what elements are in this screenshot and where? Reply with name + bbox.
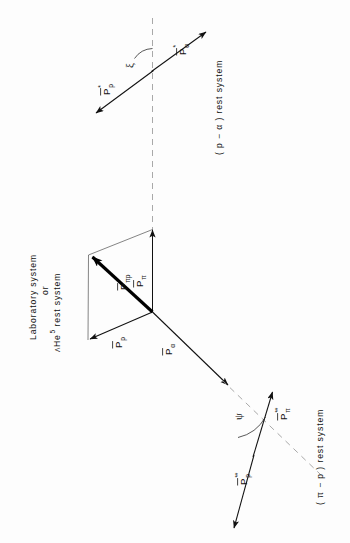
frame-caption-laboratory-line3: Λ He 5 rest system (49, 273, 62, 352)
angle-arc-xi (135, 49, 153, 59)
vector-label-p-proton-doublestar-superscript: ** (234, 472, 241, 477)
vector-label-p-proton-doublestar-symbol: P (238, 479, 249, 485)
vector-label-p-pi-p-subscript: πp (124, 274, 132, 283)
vector-label-p-pi: P π (134, 275, 147, 288)
vector-label-p-pi-doublestar-subscript: π (284, 408, 291, 413)
vector-label-p-pi-p-symbol: P (118, 284, 129, 290)
vector-label-p-pi-subscript: π (140, 275, 147, 280)
frame-caption-pi-p: ( π − p ) rest system (315, 409, 325, 505)
vector-label-p-alpha-symbol: P (163, 349, 174, 355)
vector-label-p-proton: P p (113, 337, 127, 349)
frame-caption-laboratory-line2-text: or (40, 286, 50, 295)
vector-p-proton-doublestar-arrow (234, 455, 254, 528)
vector-label-p-proton-star-subscript: p (107, 84, 115, 88)
vector-p-alpha-arrow (153, 312, 229, 385)
frame-caption-laboratory-element: He (52, 334, 62, 347)
vector-label-p-proton-star-superscript: * (97, 85, 104, 88)
angle-label-xi: ξ (123, 63, 136, 68)
frame-caption-pi-p-text: ( π − p ) rest system (315, 409, 325, 505)
frame-p-alpha-group: ξ P p * P α * ( p − α ) rest system (96, 18, 224, 230)
figure-canvas: ξ P p * P α * ( p − α ) rest system (0, 0, 350, 543)
vector-label-p-alpha-star-superscript: * (172, 44, 179, 47)
vector-label-p-proton-star: P p * (97, 84, 115, 96)
vector-label-p-pi-doublestar-superscript: ** (274, 407, 281, 412)
angle-label-psi-text: ψ (232, 413, 244, 420)
dashed-reference-axis-lower (222, 380, 320, 474)
frame-caption-laboratory-line1: Laboratory system (28, 254, 38, 340)
construction-line-left (88, 255, 89, 340)
angle-label-xi-text: ξ (123, 63, 136, 68)
vector-p-pi-doublestar-arrow (253, 392, 273, 457)
vector-label-p-proton-symbol: P (113, 342, 124, 348)
vector-label-p-alpha-subscript: α (169, 344, 176, 348)
frame-caption-laboratory-suffix: rest system (52, 273, 62, 327)
vector-label-p-proton-doublestar: P p ** (234, 472, 252, 485)
frame-caption-p-alpha-text: ( p − α ) rest system (214, 60, 224, 155)
vector-label-p-proton-doublestar-subscript: p (244, 474, 252, 478)
vector-label-p-pi-symbol: P (134, 281, 145, 287)
vector-p-proton-arrow (90, 312, 153, 339)
frame-laboratory-group: P πp P π P p P α Laboratory system or (28, 230, 228, 386)
vector-label-p-pi-doublestar: P π ** (274, 407, 291, 420)
vector-label-p-proton-subscript: p (119, 337, 127, 341)
frame-caption-p-alpha: ( p − α ) rest system (214, 60, 224, 155)
angle-label-psi: ψ (232, 413, 244, 420)
physics-vector-diagram: ξ P p * P α * ( p − α ) rest system (0, 0, 350, 543)
vector-label-p-pi-doublestar-symbol: P (278, 414, 289, 420)
vector-label-p-alpha-star-symbol: P (177, 49, 188, 55)
vector-label-p-alpha: P α (163, 344, 176, 356)
vector-label-p-alpha-star-subscript: α (183, 44, 190, 48)
frame-caption-laboratory-line2: or (40, 286, 50, 295)
frame-caption-laboratory-line1-text: Laboratory system (28, 254, 38, 340)
construction-line-top (89, 230, 153, 256)
vector-label-p-proton-star-symbol: P (101, 89, 112, 95)
vector-label-p-alpha-star: P α * (172, 44, 190, 56)
frame-pi-p-group: ψ P π ** P p ** ( π − p ) rest system (222, 380, 325, 528)
frame-caption-laboratory-mass-number: 5 (49, 330, 56, 334)
